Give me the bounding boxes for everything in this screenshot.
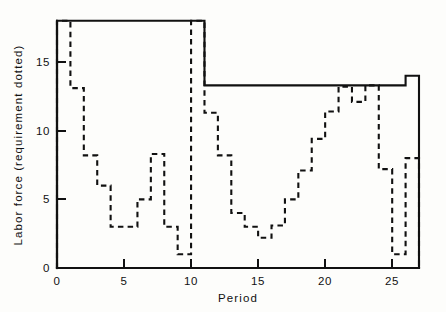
requirement-line <box>57 21 419 268</box>
chart-figure: 0 5 10 15 0 5 10 15 20 25 Period Labor f… <box>0 0 446 312</box>
y-axis-tick-labels: 0 5 10 15 <box>36 56 50 274</box>
x-ticklabel-10: 10 <box>184 275 198 287</box>
x-ticklabel-25: 25 <box>385 275 399 287</box>
x-axis-tick-labels: 0 5 10 15 20 25 <box>54 275 400 287</box>
axes-frame <box>57 22 419 268</box>
x-axis-title: Period <box>218 292 258 304</box>
x-axis-ticks <box>57 259 392 268</box>
x-ticklabel-15: 15 <box>251 275 265 287</box>
y-ticklabel-5: 5 <box>43 193 50 205</box>
x-ticklabel-0: 0 <box>54 275 61 287</box>
y-ticklabel-15: 15 <box>36 56 50 68</box>
y-axis-ticks <box>57 62 66 268</box>
labor-force-line <box>57 21 419 268</box>
y-axis-title: Labor force (requirement dotted) <box>12 45 24 246</box>
x-ticklabel-20: 20 <box>318 275 332 287</box>
y-ticklabel-10: 10 <box>36 125 50 137</box>
y-ticklabel-0: 0 <box>43 262 50 274</box>
labor-force-step-chart: 0 5 10 15 0 5 10 15 20 25 Period Labor f… <box>0 0 446 312</box>
x-ticklabel-5: 5 <box>121 275 128 287</box>
